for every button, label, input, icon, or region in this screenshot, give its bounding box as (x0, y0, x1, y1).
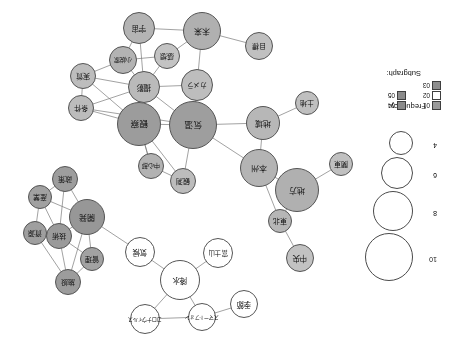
network-node[interactable]: 観測 (170, 168, 196, 194)
network-node-label: 降水 (173, 276, 187, 284)
network-node-label: 気候 (133, 248, 147, 256)
network-node[interactable]: 気温 (169, 101, 217, 149)
network-node[interactable]: 施設 (55, 269, 81, 295)
network-node-label: 政策 (58, 175, 72, 182)
network-node[interactable]: 地域 (246, 106, 280, 140)
network-node[interactable]: 産業 (28, 185, 52, 209)
network-node-label: 技術 (52, 232, 66, 239)
legend-subgraph-swatch (397, 101, 406, 110)
legend-subgraph-label: 04 (388, 102, 395, 109)
legend-frequency: 10864 Frequency: (355, 111, 441, 283)
legend-frequency-row: 10 (355, 233, 441, 283)
network-node[interactable]: 撮影 (128, 71, 160, 103)
network-node-label: 感想 (160, 52, 174, 59)
network-node-label: 観察 (130, 120, 148, 129)
legend-subgraph-swatch (397, 91, 406, 100)
legend-subgraph-swatch (432, 101, 441, 110)
legend-subgraph-label: 01 (423, 102, 430, 109)
network-node-label: 観測 (176, 177, 190, 184)
legend-subgraph-swatch (432, 81, 441, 90)
network-node-label: 関東 (334, 160, 348, 167)
network-node[interactable]: 開発 (69, 199, 105, 235)
legend-subgraph-item[interactable]: 04 (388, 101, 406, 110)
network-node-label: 中心部 (142, 163, 159, 169)
legend-subgraph-item[interactable]: 05 (388, 91, 406, 100)
legend-frequency-row: 4 (355, 131, 441, 157)
network-node[interactable]: 中央 (286, 244, 314, 272)
legend-frequency-value: 6 (433, 172, 437, 179)
legend-frequency-value: 4 (433, 142, 437, 149)
network-node[interactable]: 資源 (23, 221, 47, 245)
legend-subgraph: 0102030405 Subgraph: (359, 68, 441, 110)
network-node-label: 小説家 (114, 57, 131, 63)
network-node-label: 富士山 (208, 250, 228, 257)
network-node[interactable]: 観察 (117, 102, 161, 146)
legend-frequency-row: 8 (355, 191, 441, 233)
legend-frequency-value: 10 (429, 256, 437, 263)
network-node[interactable]: 技術 (46, 223, 72, 249)
network-node-label: 管理 (85, 255, 99, 262)
network-node-label: 中央 (293, 254, 307, 262)
network-node-label: 資源 (28, 229, 42, 236)
network-node[interactable]: 土地 (295, 91, 319, 115)
legend-frequency-bubble (389, 131, 413, 155)
network-node-label: 実質 (76, 72, 90, 79)
legend-subgraph-label: 05 (388, 92, 395, 99)
legend-frequency-bubble (373, 191, 413, 231)
network-node[interactable]: 関東 (329, 152, 353, 176)
network-node[interactable]: 条件 (68, 95, 94, 121)
legend-subgraph-label: 02 (423, 92, 430, 99)
network-node-label: コロナウイルス (128, 316, 162, 321)
network-node[interactable]: 東北 (268, 209, 292, 233)
network-node-label: 宇宙 (132, 24, 146, 32)
network-node-label: 目標 (252, 43, 266, 50)
legend-frequency-value: 8 (433, 210, 437, 217)
legend-subgraph-item[interactable]: 01 (423, 101, 441, 110)
network-node[interactable]: 感想 (154, 43, 180, 69)
network-node[interactable]: 本州 (240, 149, 278, 187)
network-node-label: 産業 (33, 193, 47, 200)
network-figure: 季節スマートフォンコロナウイルス降水富士山気候中央東北地方関東本州地域土地観測中… (0, 0, 455, 353)
network-node[interactable]: 実質 (70, 63, 96, 89)
network-node[interactable]: 政策 (52, 166, 78, 192)
legend-frequency-row: 6 (355, 157, 441, 191)
network-node-label: 気温 (184, 121, 202, 130)
legend-frequency-bubble (381, 157, 413, 189)
network-node[interactable]: 気候 (125, 237, 155, 267)
legend-subgraph-item[interactable]: 03 (423, 81, 441, 90)
network-node[interactable]: 目標 (245, 32, 273, 60)
legend-subgraph-label: 03 (423, 82, 430, 89)
network-node-label: 東北 (273, 217, 287, 224)
network-node-label: 季節 (237, 300, 251, 308)
network-node-label: 本州 (251, 164, 267, 172)
legend-subgraph-item[interactable]: 02 (423, 91, 441, 100)
network-node-label: スマートフォン (185, 314, 219, 319)
network-node-label: 未来 (194, 27, 210, 35)
network-node[interactable]: 中心部 (138, 153, 164, 179)
network-node[interactable]: スマートフォン (188, 303, 216, 331)
legend-frequency-bubble (365, 233, 413, 281)
network-node-label: 土地 (300, 99, 314, 106)
network-node[interactable]: 小説家 (109, 46, 137, 74)
network-node-label: 開発 (79, 213, 95, 221)
network-node[interactable]: コロナウイルス (130, 304, 160, 334)
figure-canvas: 季節スマートフォンコロナウイルス降水富士山気候中央東北地方関東本州地域土地観測中… (0, 0, 455, 353)
network-node-label: 施設 (61, 278, 75, 285)
network-node-label: 条件 (74, 104, 88, 111)
network-node[interactable]: 未来 (183, 12, 221, 50)
network-node[interactable]: 富士山 (203, 238, 233, 268)
network-node-label: 地方 (289, 186, 305, 194)
network-node[interactable]: 宇宙 (123, 12, 155, 44)
legend-subgraph-title: Subgraph: (386, 69, 421, 78)
network-node-label: 撮影 (137, 83, 151, 91)
network-node[interactable]: 季節 (230, 290, 258, 318)
network-node-label: 地域 (255, 119, 271, 127)
network-node-label: カメラ (187, 82, 207, 89)
network-node[interactable]: 地方 (275, 168, 319, 212)
network-node[interactable]: 管理 (80, 247, 104, 271)
network-node[interactable]: 降水 (160, 260, 200, 300)
network-node[interactable]: カメラ (181, 69, 213, 101)
legend-subgraph-swatch (432, 91, 441, 100)
